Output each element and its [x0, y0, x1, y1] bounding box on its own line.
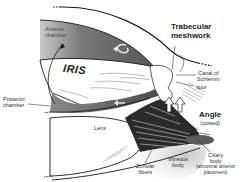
trabecular-pointer	[172, 46, 175, 70]
label-iris: IRIS	[63, 65, 87, 73]
label-anterior-chamber: Anterior chamber	[45, 26, 66, 38]
label-trabecular-meshwork: Trabecular meshwork	[171, 23, 211, 40]
label-canal-of-schlemm: Canal of Schlemm	[197, 70, 220, 82]
label-spur: spur	[196, 84, 207, 90]
label-trabecular-line2: meshwork	[171, 32, 211, 41]
eye-angle-diagram: Anterior chamber Trabecular meshwork Can…	[0, 0, 243, 182]
label-anterior-chamber-line2: chamber	[45, 32, 66, 38]
label-lens: Lens	[94, 125, 106, 131]
label-posterior-chamber: Posterior chamber	[3, 96, 25, 108]
label-ciliary-body: Ciliary body (abnormal anterior placemen…	[196, 152, 235, 176]
label-angle-closed: Angle (closed)	[199, 111, 221, 126]
label-ciliary-line4: placement)	[196, 170, 235, 176]
label-vitreous-body: Vitreous body	[168, 156, 188, 168]
label-angle-sub: (closed)	[199, 120, 221, 126]
label-angle: Angle	[199, 111, 221, 120]
label-canal-line2: Schlemm	[197, 76, 220, 82]
label-posterior-line2: chamber	[3, 102, 25, 108]
label-zonular-fibers: Zonular fibers	[136, 163, 155, 175]
label-zonular-line2: fibers	[136, 169, 155, 175]
label-vitreous-line2: body	[168, 162, 188, 168]
ciliary-body	[186, 135, 214, 145]
